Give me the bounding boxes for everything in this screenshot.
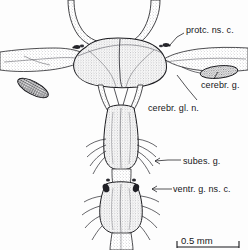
leader-protc-ns-c	[170, 33, 184, 45]
label-subes-g: subes. g.	[183, 157, 220, 166]
scale-bar-label: 0.5 mm	[181, 236, 213, 246]
brain-complex	[0, 0, 248, 250]
anatomy-drawing	[0, 0, 248, 250]
leader-cerebr-gl-n	[177, 75, 197, 100]
subesophageal-right-nerves	[137, 139, 157, 174]
label-cerebr-gl-n: cerebr. gl. n.	[148, 104, 199, 113]
label-ventr-g-ns-c: ventr. g. ns. c.	[173, 185, 231, 194]
left-protocerebral-ns-cells	[72, 45, 84, 49]
right-protocerebral-ns-cells	[159, 43, 171, 47]
left-cerebral-gland	[15, 74, 51, 101]
anatomical-figure: protc. ns. c. cerebr. g. cerebr. gl. n. …	[0, 0, 248, 250]
label-protc-ns-c: protc. ns. c.	[186, 26, 234, 35]
subesophageal-left-nerves	[86, 139, 106, 174]
label-cerebr-g: cerebr. g.	[201, 81, 240, 90]
posterior-connective	[110, 233, 133, 250]
ventral-ganglion-left-nerves	[82, 196, 102, 240]
ventral-ganglion-right-nerves	[140, 196, 160, 240]
leader-subes-g	[155, 160, 181, 161]
